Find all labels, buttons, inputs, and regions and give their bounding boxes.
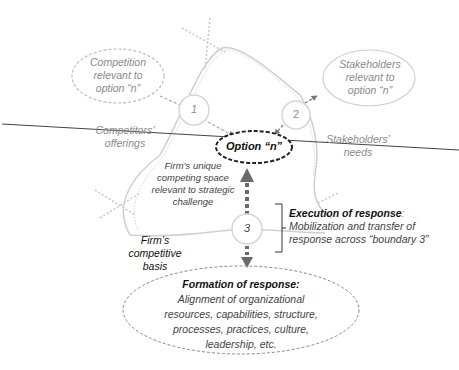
unique-space-line-4: challenge (143, 196, 243, 208)
connector-2-to-stakeholders (305, 97, 315, 103)
formation-title: Formation of response: (141, 277, 341, 292)
formation-line-4: leadership, etc. (141, 337, 341, 352)
connector-1-to-option (208, 122, 232, 135)
competitive-basis-line-2: competitive (123, 247, 187, 260)
stakeholders-needs-line-2: needs (318, 146, 398, 159)
execution-title-text: Execution of response (289, 207, 402, 219)
boundary-3-label: 3 (239, 222, 255, 235)
stakeholders-label: Stakeholders relevant to option “n” (328, 58, 412, 97)
execution-bracket (275, 204, 286, 252)
competitors-offerings-line-2: offerings (90, 137, 160, 150)
competition-label: Competition relevant to option “n” (78, 56, 158, 95)
execution-line-2: response across “boundary 3” (289, 233, 429, 246)
unique-space-label: Firm’s unique competing space relevant t… (143, 160, 243, 208)
stakeholders-needs-line-1: Stakeholders’ (318, 133, 398, 146)
dotted-line-left-cross-a (95, 190, 135, 215)
dotted-line-top-diagonal (182, 28, 225, 52)
formation-line-3: processes, practices, culture, (141, 322, 341, 337)
execution-title: Execution of response: (289, 207, 429, 220)
execution-line-1: Mobilization and transfer of (289, 220, 429, 233)
connector-2-to-option (276, 125, 283, 133)
competitive-basis-line-3: basis (123, 260, 187, 273)
competition-line-3: option “n” (78, 82, 158, 95)
stakeholders-line-2: relevant to (328, 71, 412, 84)
unique-space-line-1: Firm’s unique (143, 160, 243, 172)
dotted-line-right-short (318, 193, 338, 203)
formation-line-1: Alignment of organizational (141, 292, 341, 307)
stakeholders-line-1: Stakeholders (328, 58, 412, 71)
execution-label: Execution of response: Mobilization and … (289, 207, 429, 246)
connector-competition-to-1 (160, 96, 180, 105)
execution-title-suffix: : (402, 207, 405, 219)
boundary-1-label: 1 (186, 103, 202, 116)
arrow-down-to-formation (241, 246, 253, 268)
unique-space-line-3: relevant to strategic (143, 184, 243, 196)
stakeholders-needs-label: Stakeholders’ needs (318, 133, 398, 159)
competitive-basis-label: Firm’s competitive basis (123, 234, 187, 273)
competition-line-2: relevant to (78, 69, 158, 82)
formation-line-2: resources, capabilities, structure, (141, 307, 341, 322)
boundary-2-label: 2 (288, 108, 304, 121)
competitors-offerings-label: Competitors’ offerings (90, 124, 160, 150)
option-label: Option “n” (216, 140, 292, 153)
competitive-basis-line-1: Firm’s (123, 234, 187, 247)
formation-label: Formation of response: Alignment of orga… (141, 277, 341, 352)
competitors-offerings-line-1: Competitors’ (90, 124, 160, 137)
unique-space-line-2: competing space (143, 172, 243, 184)
stakeholders-line-3: option “n” (328, 84, 412, 97)
competition-line-1: Competition (78, 56, 158, 69)
